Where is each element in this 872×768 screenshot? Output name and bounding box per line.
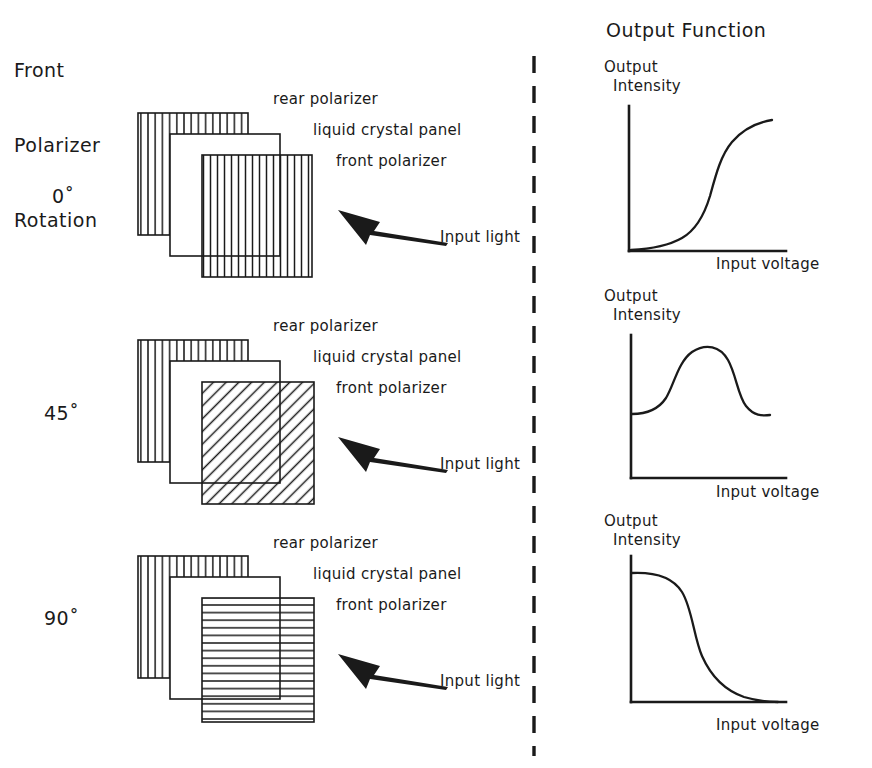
input-light-label-row-1: Input light <box>440 228 520 246</box>
chart-ylabel-line-1-row-2: Output <box>604 287 681 306</box>
chart-xlabel-row-2: Input voltage <box>716 483 820 502</box>
chart-ylabel-line-2-row-3: Intensity <box>604 531 681 550</box>
front-polarizer-label-row-2: front polarizer <box>336 379 447 397</box>
input-light-arrow-row-2 <box>336 427 456 473</box>
input-light-label-row-2: Input light <box>440 455 520 473</box>
dashed-vertical-divider <box>528 56 540 756</box>
front-polarizer-panel-row-3 <box>202 598 314 722</box>
output-function-chart-row-1 <box>620 100 810 260</box>
rear-polarizer-label-row-2: rear polarizer <box>273 317 378 335</box>
left-header-line-1: Front <box>14 58 100 83</box>
angle-label-row-1: 0˚ <box>52 185 75 207</box>
left-header-line-2: Polarizer <box>14 133 100 158</box>
liquid-crystal-panel-label-row-3: liquid crystal panel <box>313 565 462 583</box>
front-polarizer-panel-row-1 <box>202 155 312 277</box>
front-polarizer-panel-row-2 <box>202 382 314 504</box>
output-function-title: Output Function <box>606 18 766 43</box>
rear-polarizer-label-row-1: rear polarizer <box>273 90 378 108</box>
chart-ylabel-row-2: Output Intensity <box>604 287 681 325</box>
chart-ylabel-row-1: Output Intensity <box>604 58 681 96</box>
output-function-chart-row-2 <box>620 330 810 490</box>
left-header-title: Front Polarizer Rotation <box>14 8 100 258</box>
chart-curve-row-1 <box>631 120 772 250</box>
chart-ylabel-line-1-row-1: Output <box>604 58 681 77</box>
liquid-crystal-panel-label-row-1: liquid crystal panel <box>313 121 462 139</box>
chart-xlabel-row-3: Input voltage <box>716 716 820 735</box>
chart-curve-row-2 <box>632 347 770 416</box>
chart-xlabel-row-1: Input voltage <box>716 255 820 274</box>
chart-ylabel-row-3: Output Intensity <box>604 512 681 550</box>
angle-label-row-3: 90˚ <box>44 607 79 629</box>
chart-ylabel-line-2-row-1: Intensity <box>604 77 681 96</box>
chart-ylabel-line-2-row-2: Intensity <box>604 306 681 325</box>
chart-curve-row-3 <box>632 573 778 702</box>
liquid-crystal-panel-label-row-2: liquid crystal panel <box>313 348 462 366</box>
left-header-line-3: Rotation <box>14 208 100 233</box>
input-light-label-row-3: Input light <box>440 672 520 690</box>
front-polarizer-label-row-1: front polarizer <box>336 152 447 170</box>
angle-label-row-2: 45˚ <box>44 402 79 424</box>
input-light-arrow-row-1 <box>336 200 456 246</box>
front-polarizer-label-row-3: front polarizer <box>336 596 447 614</box>
output-function-chart-row-3 <box>620 552 810 712</box>
chart-ylabel-line-1-row-3: Output <box>604 512 681 531</box>
rear-polarizer-label-row-3: rear polarizer <box>273 534 378 552</box>
input-light-arrow-row-3 <box>336 644 456 690</box>
